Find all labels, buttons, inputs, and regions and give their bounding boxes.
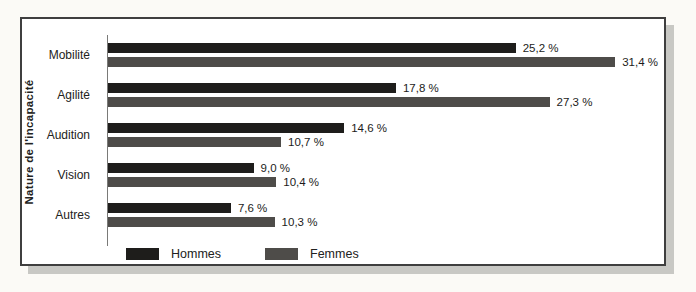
value-label: 17,8 % <box>403 83 439 93</box>
legend-swatch-hommes <box>126 248 159 260</box>
legend-label-hommes: Hommes <box>171 247 221 261</box>
value-label: 25,2 % <box>523 43 559 53</box>
bar-femmes <box>108 57 615 67</box>
bar-row: 31,4 % <box>108 57 658 67</box>
bar-group-autres: Autres 7,6 % 10,3 % <box>22 203 658 227</box>
category-label: Agilité <box>22 83 100 107</box>
bar-femmes <box>108 177 276 187</box>
bar-group-agilite: Agilité 17,8 % 27,3 % <box>22 83 658 107</box>
bar-row: 10,4 % <box>108 177 658 187</box>
bar-hommes <box>108 203 231 213</box>
bar-hommes <box>108 43 516 53</box>
category-label: Vision <box>22 163 100 187</box>
bar-row: 27,3 % <box>108 97 658 107</box>
bar-row: 25,2 % <box>108 43 658 53</box>
chart-panel: Nature de l'incapacité Mobilité 25,2 % 3… <box>20 17 666 266</box>
bar-femmes <box>108 217 275 227</box>
bar-group-vision: Vision 9,0 % 10,4 % <box>22 163 658 187</box>
value-label: 10,4 % <box>283 177 319 187</box>
bar-row: 14,6 % <box>108 123 658 133</box>
bar-row: 17,8 % <box>108 83 658 93</box>
value-label: 14,6 % <box>351 123 387 133</box>
bar-row: 9,0 % <box>108 163 658 173</box>
plot-area: Mobilité 25,2 % 31,4 % Agilité 17,8 % <box>22 43 658 227</box>
bar-row: 7,6 % <box>108 203 658 213</box>
bar-hommes <box>108 163 254 173</box>
value-label: 9,0 % <box>261 163 290 173</box>
bar-femmes <box>108 137 281 147</box>
value-label: 10,3 % <box>282 217 318 227</box>
legend-label-femmes: Femmes <box>310 247 359 261</box>
value-label: 31,4 % <box>622 57 658 67</box>
value-label: 10,7 % <box>288 137 324 147</box>
value-label: 7,6 % <box>238 203 267 213</box>
bar-hommes <box>108 83 396 93</box>
category-label: Mobilité <box>22 43 100 67</box>
legend-swatch-femmes <box>265 248 298 260</box>
bar-group-audition: Audition 14,6 % 10,7 % <box>22 123 658 147</box>
bar-femmes <box>108 97 550 107</box>
bar-row: 10,7 % <box>108 137 658 147</box>
bar-hommes <box>108 123 344 133</box>
category-label: Audition <box>22 123 100 147</box>
bar-row: 10,3 % <box>108 217 658 227</box>
bar-group-mobilite: Mobilité 25,2 % 31,4 % <box>22 43 658 67</box>
legend: Hommes Femmes <box>126 247 359 261</box>
value-label: 27,3 % <box>557 97 593 107</box>
category-label: Autres <box>22 203 100 227</box>
